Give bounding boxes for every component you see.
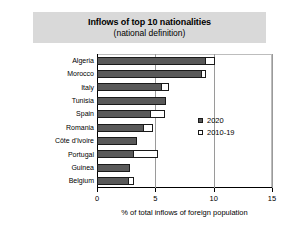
bar-segment-2020[interactable] bbox=[97, 137, 137, 145]
bar-segment-2010-19[interactable] bbox=[162, 83, 169, 91]
bar-row[interactable] bbox=[97, 161, 130, 174]
y-axis-label-spain: Spain bbox=[76, 110, 94, 118]
y-axis-label-algeria: Algeria bbox=[72, 57, 94, 65]
gridline-15 bbox=[272, 54, 273, 188]
bar-segment-2010-19[interactable] bbox=[144, 124, 153, 132]
y-axis-label-belgium: Belgium bbox=[69, 177, 94, 185]
bar-segment-2010-19[interactable] bbox=[206, 57, 215, 65]
y-axis-label-c-te-d-ivoire: Côte d'Ivoire bbox=[55, 137, 94, 145]
x-tick-label: 5 bbox=[145, 194, 165, 203]
x-tick-0 bbox=[97, 188, 98, 192]
bar-segment-2020[interactable] bbox=[97, 150, 134, 158]
legend-label-2010-19: 2010-19 bbox=[207, 128, 235, 137]
bar-row[interactable] bbox=[97, 81, 169, 94]
y-axis-label-guinea: Guinea bbox=[71, 164, 94, 172]
bar-row[interactable] bbox=[97, 148, 158, 161]
y-axis-label-romania: Romania bbox=[66, 124, 94, 132]
chart-legend: 2020 2010-19 bbox=[198, 116, 235, 137]
bar-row[interactable] bbox=[97, 121, 153, 134]
chart-title: Inflows of top 10 nationalities bbox=[88, 17, 211, 28]
bar-chart: AlgeriaMoroccoItalyTunisiaSpainRomaniaCô… bbox=[0, 48, 299, 233]
legend-label-2020: 2020 bbox=[207, 116, 224, 125]
legend-swatch-filled-icon bbox=[198, 118, 203, 123]
bar-segment-2020[interactable] bbox=[97, 124, 144, 132]
bar-segment-2020[interactable] bbox=[97, 177, 129, 185]
legend-item-2020: 2020 bbox=[198, 116, 235, 125]
bar-segment-2010-19[interactable] bbox=[129, 177, 135, 185]
y-axis-label-portugal: Portugal bbox=[68, 151, 94, 159]
bar-segment-2010-19[interactable] bbox=[134, 150, 157, 158]
bar-segment-2020[interactable] bbox=[97, 83, 162, 91]
x-axis-caption: % of total inflows of foreign population bbox=[97, 208, 272, 217]
bar-segment-2020[interactable] bbox=[97, 70, 202, 78]
bar-row[interactable] bbox=[97, 67, 206, 80]
bar-segment-2020[interactable] bbox=[97, 57, 206, 65]
x-tick-10 bbox=[214, 188, 215, 192]
x-tick-label: 15 bbox=[262, 194, 282, 203]
y-axis-label-tunisia: Tunisia bbox=[72, 97, 94, 105]
bar-segment-2020[interactable] bbox=[97, 164, 130, 172]
bar-segment-2020[interactable] bbox=[97, 97, 166, 105]
bar-row[interactable] bbox=[97, 94, 166, 107]
x-tick-label: 0 bbox=[87, 194, 107, 203]
x-tick-5 bbox=[155, 188, 156, 192]
bar-row[interactable] bbox=[97, 134, 137, 147]
chart-title-banner: Inflows of top 10 nationalities (nationa… bbox=[33, 12, 266, 43]
bar-segment-2010-19[interactable] bbox=[202, 70, 206, 78]
bar-segment-2020[interactable] bbox=[97, 110, 151, 118]
legend-swatch-hollow-icon bbox=[198, 130, 203, 135]
x-tick-15 bbox=[272, 188, 273, 192]
bar-row[interactable] bbox=[97, 54, 215, 67]
bar-row[interactable] bbox=[97, 108, 165, 121]
y-axis-label-morocco: Morocco bbox=[67, 70, 94, 78]
y-axis-label-italy: Italy bbox=[81, 84, 94, 92]
bar-segment-2010-19[interactable] bbox=[151, 110, 165, 118]
chart-subtitle: (national definition) bbox=[114, 28, 186, 39]
legend-item-2010-19: 2010-19 bbox=[198, 128, 235, 137]
bar-series-container bbox=[97, 54, 272, 188]
bar-row[interactable] bbox=[97, 175, 134, 188]
x-tick-label: 10 bbox=[204, 194, 224, 203]
